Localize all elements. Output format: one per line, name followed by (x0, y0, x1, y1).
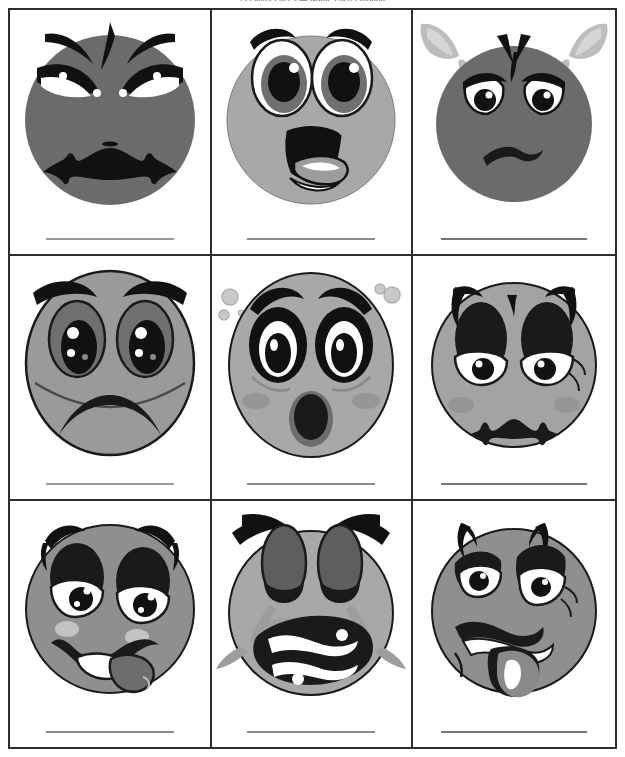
answer-line-2[interactable] (212, 238, 412, 240)
angry-face-icon (10, 12, 210, 217)
emotion-faces-grid (8, 8, 617, 749)
answer-line-6[interactable] (413, 483, 615, 485)
face-cell-4-sad[interactable] (10, 256, 212, 502)
face-cell-8-crying[interactable] (212, 501, 414, 747)
face-cell-1-angry[interactable] (10, 10, 212, 256)
answer-line-1[interactable] (10, 238, 210, 240)
shocked-face-icon (212, 12, 412, 217)
face-cell-2-shocked[interactable] (212, 10, 414, 256)
answer-line-4[interactable] (10, 483, 210, 485)
silly-face-icon (10, 503, 210, 708)
face-cell-5-surprised[interactable] (212, 256, 414, 502)
surprised-face-icon (212, 258, 412, 463)
answer-line-9[interactable] (413, 731, 615, 733)
tired-sad-face-icon (413, 258, 615, 463)
sad-face-icon (10, 258, 210, 463)
sick-face-icon (413, 503, 615, 708)
answer-line-8[interactable] (212, 731, 412, 733)
worksheet-title: Feelings Faces — Name each emotion (0, 0, 625, 1)
answer-line-7[interactable] (10, 731, 210, 733)
face-cell-7-silly[interactable] (10, 501, 212, 747)
face-cell-9-sick[interactable] (413, 501, 615, 747)
answer-line-3[interactable] (413, 238, 615, 240)
answer-line-5[interactable] (212, 483, 412, 485)
face-cell-6-tired[interactable] (413, 256, 615, 502)
crying-face-icon (212, 503, 412, 708)
face-cell-3-furious[interactable] (413, 10, 615, 256)
enraged-steaming-face-icon (413, 12, 615, 217)
